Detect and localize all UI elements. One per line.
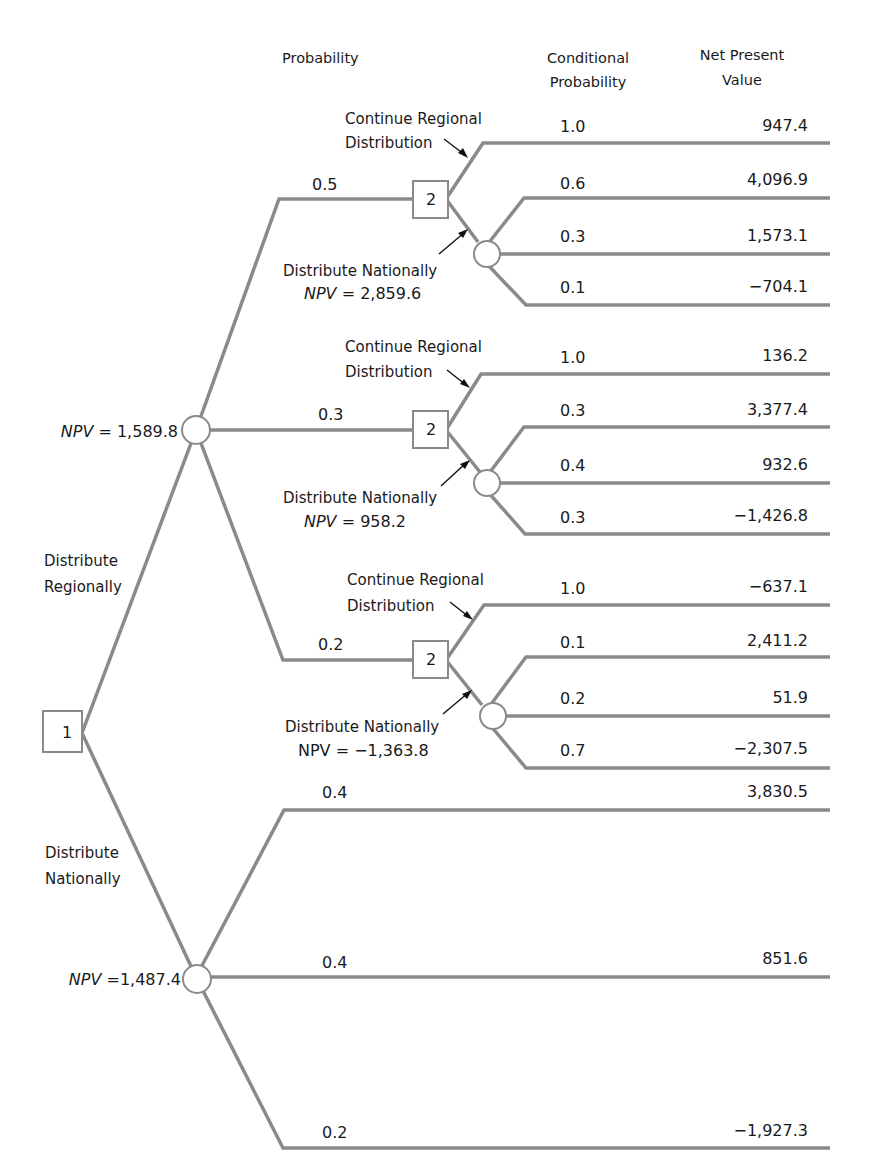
npv-1-3: −704.1 [749, 277, 808, 296]
cond-prob-2-2: 0.4 [560, 456, 585, 475]
npv-1-continue: 947.4 [762, 116, 808, 135]
npv-sub2: NPV = 958.2 [304, 512, 406, 531]
cond-prob-3-3: 0.7 [560, 741, 585, 760]
label-distribute-nationally-sub3: Distribute Nationally [285, 718, 439, 736]
npv-sub1: NPV = 2,859.6 [304, 284, 421, 303]
cond-prob-1-2: 0.3 [560, 227, 585, 246]
cond-prob-2-3: 0.3 [560, 508, 585, 527]
chance-node-national [183, 965, 211, 993]
cond-prob-3-2: 0.2 [560, 689, 585, 708]
decision-node-2c-label: 2 [426, 650, 436, 669]
prob-regional-3: 0.2 [318, 635, 343, 654]
npv-1-1: 4,096.9 [747, 170, 808, 189]
header-probability: Probability [282, 50, 359, 66]
npv-3-1: 2,411.2 [747, 631, 808, 650]
header-npv-line2: Value [722, 72, 762, 88]
prob-regional-2: 0.3 [318, 405, 343, 424]
npv-national-3: −1,927.3 [734, 1121, 808, 1140]
npv-2-2: 932.6 [762, 455, 808, 474]
npv-3-continue: −637.1 [749, 577, 808, 596]
npv-national-2: 851.6 [762, 949, 808, 968]
npv-2-continue: 136.2 [762, 346, 808, 365]
npv-2-1: 3,377.4 [747, 400, 808, 419]
npv-regional-chance: NPV = 1,589.8 [61, 422, 178, 441]
npv-1-2: 1,573.1 [747, 226, 808, 245]
decision-node-2b-label: 2 [426, 420, 436, 439]
prob-national-1: 0.4 [322, 783, 347, 802]
edge-regional-outcome-1 [196, 199, 416, 430]
label-continue-regional-1b: Distribution [345, 134, 433, 152]
label-continue-regional-3b: Distribution [347, 597, 435, 615]
npv-2-3: −1,426.8 [734, 506, 808, 525]
prob-national-2: 0.4 [322, 953, 347, 972]
edge-distribute-nationally-3 [446, 660, 482, 705]
npv-national-1: 3,830.5 [747, 782, 808, 801]
header-conditional-probability-line1: Conditional [547, 50, 629, 66]
cond-prob-1-1: 0.6 [560, 174, 585, 193]
label-continue-regional-2a: Continue Regional [345, 338, 482, 356]
decision-node-1-label: 1 [62, 723, 72, 742]
header-conditional-probability-line2: Probability [550, 74, 627, 90]
header-npv-line1: Net Present [700, 47, 785, 63]
label-distribute-nationally-2: Nationally [45, 870, 121, 888]
label-distribute-nationally-sub2: Distribute Nationally [283, 489, 437, 507]
cond-prob-3-1: 0.1 [560, 633, 585, 652]
edge-regional-outcome-3 [196, 430, 416, 660]
chance-node-national-2 [474, 470, 500, 496]
npv-sub3: NPV = −1,363.8 [298, 741, 429, 760]
cond-prob-2-continue: 1.0 [560, 348, 585, 367]
decision-tree: Probability Conditional Probability Net … [0, 0, 870, 1174]
edge-national-chance-outcome-1 [196, 810, 830, 977]
label-distribute-regionally-2: Regionally [44, 578, 122, 596]
label-continue-regional-3a: Continue Regional [347, 571, 484, 589]
label-continue-regional-1a: Continue Regional [345, 110, 482, 128]
cond-prob-3-continue: 1.0 [560, 579, 585, 598]
cond-prob-2-1: 0.3 [560, 401, 585, 420]
npv-3-3: −2,307.5 [734, 739, 808, 758]
prob-national-3: 0.2 [322, 1123, 347, 1142]
cond-prob-1-3: 0.1 [560, 278, 585, 297]
decision-node-2a-label: 2 [426, 190, 436, 209]
chance-node-regional [182, 416, 210, 444]
chance-node-national-1 [474, 241, 500, 267]
label-distribute-regionally-1: Distribute [44, 552, 118, 570]
npv-national-chance: NPV =1,487.4 [69, 970, 181, 989]
npv-3-2: 51.9 [772, 688, 808, 707]
label-distribute-nationally-1: Distribute [45, 844, 119, 862]
prob-regional-1: 0.5 [312, 175, 337, 194]
cond-prob-1-continue: 1.0 [560, 117, 585, 136]
label-continue-regional-2b: Distribution [345, 363, 433, 381]
chance-node-national-3 [480, 703, 506, 729]
label-distribute-nationally-sub1: Distribute Nationally [283, 262, 437, 280]
